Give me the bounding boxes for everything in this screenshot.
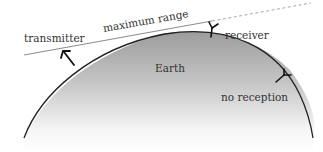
no-reception-label: no reception [221,92,288,103]
transmitter-antenna-icon [61,51,74,65]
receiver-label: receiver [225,30,269,41]
transmitter-label: transmitter [24,33,85,44]
radio-horizon-diagram: transmitter maximum range receiver Earth… [0,0,323,152]
maximum-range-line-dashed [212,3,311,21]
earth-label: Earth [155,63,185,74]
